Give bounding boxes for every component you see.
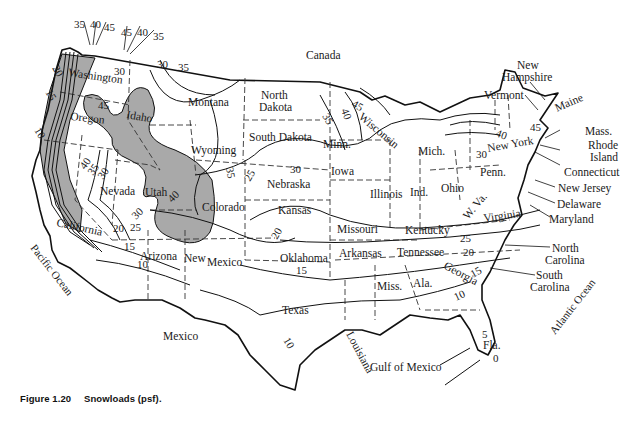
svg-text:30: 30 <box>476 148 488 160</box>
label-new-hampshire-1: New <box>517 59 539 71</box>
label-montana: Montana <box>188 96 229 108</box>
label-mich: Mich. <box>418 145 445 157</box>
svg-text:10: 10 <box>137 258 149 270</box>
label-canada: Canada <box>306 49 340 61</box>
svg-text:10: 10 <box>281 335 297 351</box>
svg-text:45: 45 <box>104 21 116 33</box>
label-kansas: Kansas <box>278 204 312 216</box>
label-nevada: Nevada <box>100 185 135 197</box>
label-arkansas: Arkansas <box>339 247 382 259</box>
label-south-carolina-1: South <box>536 269 563 281</box>
label-colorado: Colorado <box>202 201 245 213</box>
label-gulf-of-mexico: Gulf of Mexico <box>370 361 442 373</box>
label-south-dakota: South Dakota <box>249 131 312 143</box>
svg-text:0: 0 <box>493 352 499 364</box>
svg-text:25: 25 <box>460 232 472 244</box>
label-delaware: Delaware <box>557 198 601 210</box>
label-new-mexico-1: New <box>184 252 206 264</box>
label-rhode-island-2: Island <box>590 151 618 163</box>
label-wisconsin: Wisconsin <box>357 110 402 150</box>
svg-text:30: 30 <box>114 65 126 77</box>
label-kentucky: Kentucky <box>405 224 450 237</box>
svg-text:40: 40 <box>137 26 149 38</box>
svg-text:30: 30 <box>290 163 302 175</box>
label-nebraska: Nebraska <box>267 178 310 190</box>
us-outline <box>32 48 558 390</box>
label-penn: Penn. <box>480 166 506 178</box>
label-ohio: Ohio <box>441 182 464 194</box>
svg-text:25: 25 <box>241 167 257 183</box>
svg-text:35: 35 <box>153 30 165 42</box>
svg-text:35: 35 <box>320 111 336 127</box>
label-north-carolina-2: Carolina <box>545 254 585 266</box>
label-connecticut: Connecticut <box>564 166 620 178</box>
label-louisiana: Louisiana <box>344 329 376 375</box>
label-oregon: Oregon <box>70 110 106 127</box>
label-wyoming: Wyoming <box>191 144 237 157</box>
svg-text:20: 20 <box>113 222 125 234</box>
label-new-mexico-2: Mexico <box>207 256 242 268</box>
svg-text:45: 45 <box>121 26 133 38</box>
figure-number: Figure 1.20 <box>20 393 71 404</box>
label-vermont: Vermont <box>484 89 524 101</box>
svg-text:15: 15 <box>124 240 136 252</box>
label-iowa: Iowa <box>331 165 354 177</box>
svg-text:45: 45 <box>98 99 110 111</box>
svg-text:20: 20 <box>463 246 475 258</box>
svg-text:35: 35 <box>74 18 86 30</box>
svg-text:45: 45 <box>530 121 542 133</box>
label-mass: Mass. <box>585 125 612 137</box>
label-new-jersey: New Jersey <box>558 182 612 195</box>
label-maryland: Maryland <box>549 213 594 226</box>
label-south-carolina-2: Carolina <box>530 281 570 293</box>
svg-text:40: 40 <box>90 18 102 30</box>
label-new-hampshire-2: Hampshire <box>502 71 552 84</box>
label-north-carolina-1: North <box>552 242 579 254</box>
snowload-map: Canada Mexico Pacific Ocean Atlantic Oce… <box>0 0 639 421</box>
label-mexico: Mexico <box>163 330 198 342</box>
label-illinois: Illinois <box>370 188 403 200</box>
label-oklahoma: Oklahoma <box>280 252 328 264</box>
label-ala: Ala. <box>413 277 433 289</box>
svg-text:15: 15 <box>296 264 308 276</box>
svg-text:20: 20 <box>268 225 284 241</box>
figure-caption: Figure 1.20 Snowloads (psf). <box>20 393 162 404</box>
svg-text:30: 30 <box>157 58 169 70</box>
svg-text:35: 35 <box>178 61 190 73</box>
label-tennessee: Tennessee <box>397 246 444 258</box>
label-new-york: New York <box>486 134 534 154</box>
figure-title: Snowloads (psf). <box>84 393 162 404</box>
label-north-dakota-2: Dakota <box>259 101 292 113</box>
svg-text:30: 30 <box>129 205 146 222</box>
svg-text:25: 25 <box>130 221 142 233</box>
label-missouri: Missouri <box>337 223 378 235</box>
svg-text:10: 10 <box>452 287 467 303</box>
svg-text:35: 35 <box>224 166 238 179</box>
svg-text:5: 5 <box>482 328 488 340</box>
label-north-dakota-1: North <box>261 89 288 101</box>
label-texas: Texas <box>282 304 309 316</box>
label-fla: Fla. <box>483 339 501 351</box>
label-rhode-island-1: Rhode <box>588 139 618 151</box>
label-minn: Minn. <box>323 138 351 150</box>
label-miss: Miss. <box>377 280 402 292</box>
label-ind: Ind. <box>410 186 428 198</box>
